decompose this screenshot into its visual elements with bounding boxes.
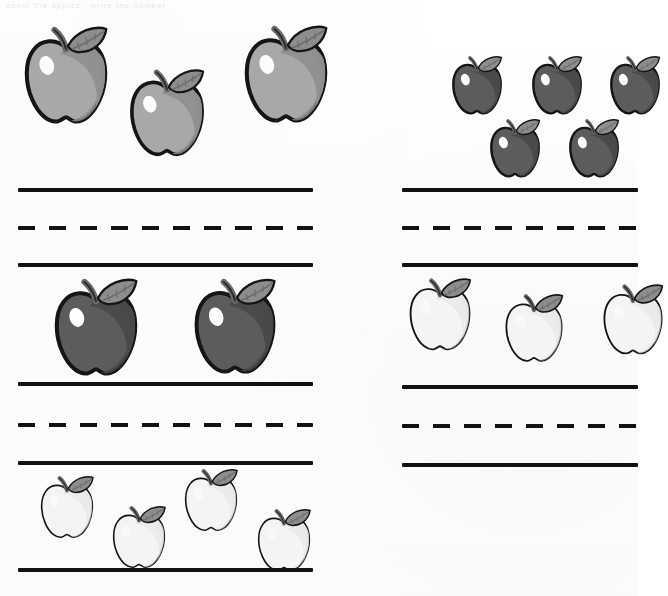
apple-light — [253, 508, 315, 575]
left-group-2-dashed-mid-line — [18, 423, 313, 427]
apple-medium — [238, 24, 334, 128]
apple-light — [180, 468, 242, 535]
apple-dark — [606, 55, 664, 118]
apple-medium — [18, 25, 114, 129]
apple-light — [598, 283, 668, 359]
apple-light — [36, 475, 98, 542]
right-group-2-solid-bottom-line — [402, 463, 638, 467]
apple-light — [108, 505, 170, 572]
left-group-3-solid-bottom-line — [18, 568, 313, 572]
apple-dark — [48, 277, 144, 381]
left-group-2-solid-top-line — [18, 382, 313, 386]
left-group-1-solid-bottom-line — [18, 263, 313, 267]
apple-dark — [448, 55, 506, 118]
apple-light — [404, 277, 476, 355]
right-group-1-solid-top-line — [402, 188, 638, 192]
right-group-1-dashed-mid-line — [402, 226, 638, 230]
left-group-1-dashed-mid-line — [18, 226, 313, 230]
apple-dark — [486, 118, 544, 181]
apple-dark — [565, 118, 623, 181]
right-group-1-solid-bottom-line — [402, 263, 638, 267]
apple-dark — [188, 277, 282, 379]
right-group-2-solid-top-line — [402, 385, 638, 389]
right-group-2-dashed-mid-line — [402, 424, 638, 428]
left-group-2-solid-bottom-line — [18, 461, 313, 465]
apple-dark — [528, 55, 586, 118]
apple-light — [500, 293, 568, 366]
left-group-1-solid-top-line — [18, 188, 313, 192]
apple-medium — [124, 68, 210, 161]
